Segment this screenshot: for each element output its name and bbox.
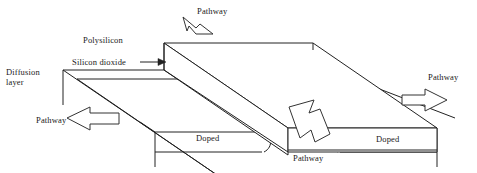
tapered-pointer-icon — [183, 17, 213, 34]
pathway-right-arrow — [402, 89, 447, 111]
block-arrow-right-icon — [402, 89, 447, 111]
substrate-left-corner-diagonal — [140, 122, 155, 132]
pathway-left-arrow — [67, 107, 119, 130]
gate-front-face — [288, 128, 437, 152]
label-silicon-dioxide: Silicon dioxide — [72, 57, 126, 67]
label-diffusion-layer: Diffusion layer — [6, 67, 40, 87]
label-pathway-left: Pathway — [36, 115, 66, 125]
label-polysilicon: Polysilicon — [83, 35, 123, 45]
mosfet-structure-drawing — [0, 0, 477, 173]
label-pathway-bottom: Pathway — [293, 153, 323, 163]
pathway-top-leader — [183, 17, 213, 34]
block-arrow-left-icon — [67, 107, 119, 130]
silicon-dioxide-leader — [140, 59, 166, 66]
diagram-canvas: Pathway Polysilicon Silicon dioxide Diff… — [0, 0, 477, 173]
label-diffusion-layer-line1: Diffusion — [6, 67, 40, 77]
label-diffusion-layer-line2: layer — [6, 77, 40, 87]
label-pathway-top: Pathway — [197, 6, 227, 16]
label-doped-right: Doped — [376, 134, 399, 144]
label-doped-left: Doped — [196, 133, 219, 143]
label-pathway-right: Pathway — [428, 72, 458, 82]
